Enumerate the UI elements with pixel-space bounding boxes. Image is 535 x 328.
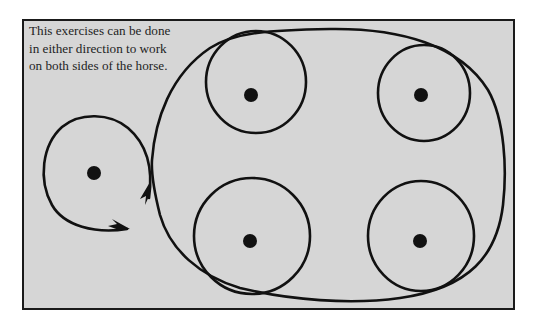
bottom-right-circle-dot [413,234,427,248]
left-small-circle-dot [87,166,101,180]
top-left-circle [206,31,306,133]
top-left-circle-dot [244,88,258,102]
caption-line-2: in either direction to work [29,40,170,58]
right-arrow-icon [108,219,130,230]
caption-line-1: This exercises can be done [29,22,170,40]
caption-text: This exercises can be done in either dir… [29,22,170,75]
outer-oval-path [152,29,505,301]
caption-line-3: on both sides of the horse. [29,57,170,75]
up-arrow-icon [140,182,150,205]
top-right-circle-dot [414,88,428,102]
bottom-left-circle-dot [243,234,257,248]
